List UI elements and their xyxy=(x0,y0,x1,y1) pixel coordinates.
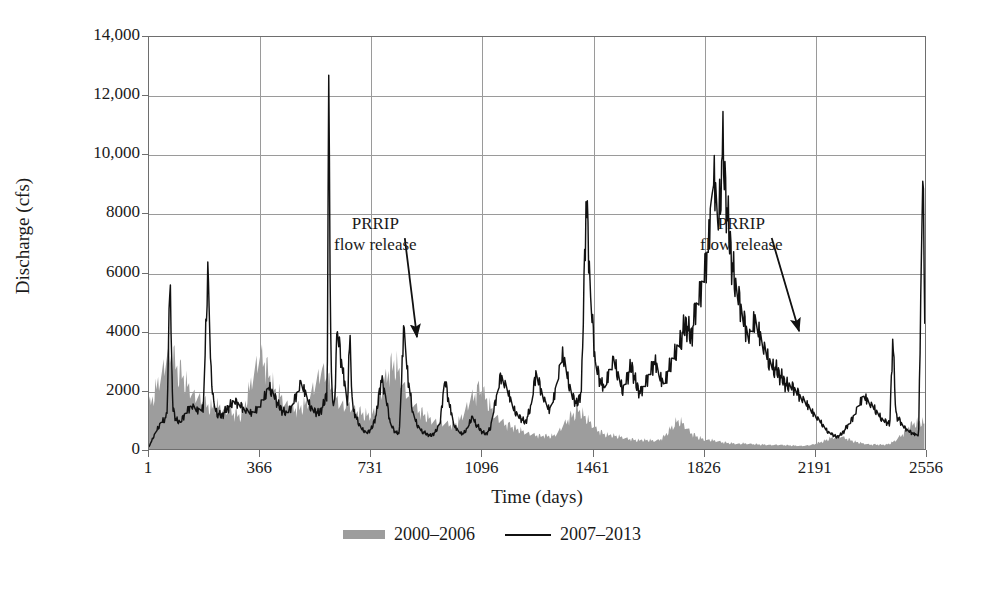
legend-item-2007-2013: 2007–2013 xyxy=(505,524,641,545)
x-tick-label: 2191 xyxy=(780,458,850,478)
x-tick-label: 1826 xyxy=(669,458,739,478)
x-tick-mark xyxy=(259,450,260,457)
y-tick-label: 6000 xyxy=(0,262,150,282)
x-tick-label: 731 xyxy=(335,458,405,478)
annotation-1-line-1: PRRIP xyxy=(334,214,417,235)
annotation-2-line-2: flow release xyxy=(700,235,783,256)
legend-label-2007-2013: 2007–2013 xyxy=(560,524,641,545)
x-axis-title: Time (days) xyxy=(148,486,926,508)
y-tick-label: 14,000 xyxy=(0,25,150,45)
series-canvas xyxy=(149,37,925,449)
chart-legend: 2000–2006 2007–2013 xyxy=(0,524,984,545)
x-tick-label: 2556 xyxy=(891,458,961,478)
annotation-1-line-2: flow release xyxy=(334,235,417,256)
legend-swatch-line-icon xyxy=(505,534,551,536)
y-tick-label: 0 xyxy=(0,439,150,459)
x-tick-mark xyxy=(704,450,705,457)
x-tick-mark xyxy=(926,450,927,457)
x-tick-mark xyxy=(370,450,371,457)
legend-item-2000-2006: 2000–2006 xyxy=(343,524,475,545)
legend-label-2000-2006: 2000–2006 xyxy=(394,524,475,545)
y-tick-label: 10,000 xyxy=(0,143,150,163)
x-tick-label: 1096 xyxy=(446,458,516,478)
discharge-hydrograph-figure: Discharge (cfs) 14,00012,00010,000800060… xyxy=(0,0,984,592)
x-tick-label: 1461 xyxy=(558,458,628,478)
y-tick-label: 8000 xyxy=(0,202,150,222)
annotation-prrip-flow-release-2: PRRIP flow release xyxy=(700,214,783,255)
annotation-prrip-flow-release-1: PRRIP flow release xyxy=(334,214,417,255)
legend-swatch-area-icon xyxy=(343,530,385,539)
y-axis-title-text: Discharge (cfs) xyxy=(12,141,34,331)
annotation-2-line-1: PRRIP xyxy=(700,214,783,235)
x-tick-mark xyxy=(148,450,149,457)
x-tick-mark xyxy=(481,450,482,457)
plot-area xyxy=(148,36,926,450)
x-tick-mark xyxy=(593,450,594,457)
x-tick-label: 366 xyxy=(224,458,294,478)
y-tick-label: 2000 xyxy=(0,380,150,400)
x-tick-label: 1 xyxy=(113,458,183,478)
y-tick-label: 4000 xyxy=(0,321,150,341)
x-tick-mark xyxy=(815,450,816,457)
y-tick-label: 12,000 xyxy=(0,84,150,104)
